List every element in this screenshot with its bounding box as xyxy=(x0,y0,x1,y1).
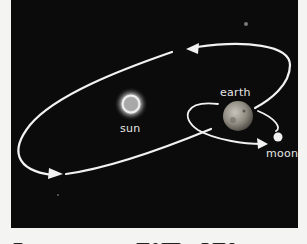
earth-label: earth xyxy=(220,86,251,99)
orbit-arrow-icon xyxy=(186,43,199,54)
moon-label: moon xyxy=(266,147,298,160)
earth-icon xyxy=(223,101,253,131)
sun-icon xyxy=(114,87,148,121)
clipped-caption xyxy=(11,236,298,244)
sun-label: sun xyxy=(120,122,141,135)
star-icon xyxy=(244,22,248,26)
orbit-arrow-icon xyxy=(48,168,63,179)
orbit-diagram xyxy=(0,0,307,244)
moon-icon xyxy=(274,133,283,142)
star-icon xyxy=(57,194,59,196)
